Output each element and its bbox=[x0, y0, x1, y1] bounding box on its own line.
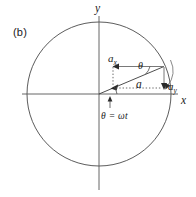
vector-a-label: a bbox=[136, 79, 142, 91]
component-ay-subscript: y bbox=[174, 86, 177, 95]
angle-equation-label: θ = ωt bbox=[101, 112, 128, 122]
panel-label: (b) bbox=[13, 27, 27, 38]
figure-panel-b: (b) y x ax ay a θ θ = ωt bbox=[0, 0, 196, 197]
angle-theta-label: θ bbox=[138, 61, 143, 71]
vector-a-line bbox=[99, 67, 164, 95]
vector-diagram-svg bbox=[0, 0, 196, 197]
component-ay-label: ay bbox=[168, 81, 177, 95]
component-ax-subscript: x bbox=[114, 58, 117, 67]
angle-callout-arrowhead bbox=[108, 96, 113, 101]
y-axis-label: y bbox=[95, 3, 100, 15]
component-ax-label: ax bbox=[108, 53, 117, 67]
x-axis-label: x bbox=[181, 95, 186, 107]
